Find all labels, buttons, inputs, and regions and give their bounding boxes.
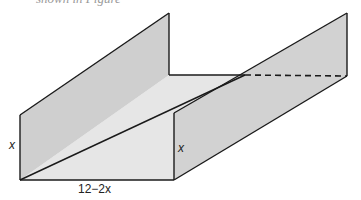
left-height-label: x (9, 138, 15, 152)
right-height-label: x (178, 141, 184, 155)
base-width-label: 12−2x (78, 182, 111, 196)
trough-drawing (0, 0, 361, 200)
